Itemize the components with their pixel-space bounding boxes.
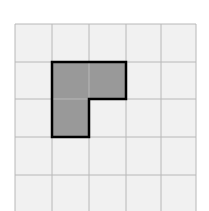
shaded-cell xyxy=(89,62,126,99)
grid-background xyxy=(15,24,196,211)
grid-diagram xyxy=(0,0,209,211)
shaded-cell xyxy=(52,99,89,137)
shaded-cell xyxy=(52,62,89,99)
